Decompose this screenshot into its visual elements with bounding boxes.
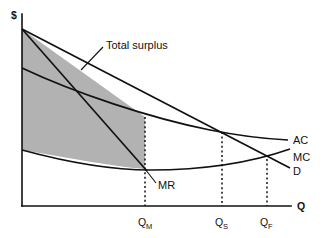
y-axis-label: $ [11, 9, 17, 21]
tick-label-qs: Q S [215, 216, 228, 231]
total-surplus-label: Total surplus [106, 39, 168, 51]
economics-diagram: $ Q Total surplus MR AC MC D Q M Q S Q F [0, 0, 323, 238]
mr-label: MR [158, 179, 175, 191]
tick-label-qs-base: Q [215, 216, 223, 228]
tick-label-qm-base: Q [138, 216, 146, 228]
total-surplus-leader-line [81, 47, 103, 70]
mr-leader-line [145, 169, 156, 183]
tick-label-qm: Q M [138, 216, 152, 231]
tick-label-qs-sub: S [223, 222, 228, 231]
tick-label-qf: Q F [260, 216, 273, 231]
x-axis-label: Q [297, 200, 305, 212]
tick-label-qf-base: Q [260, 216, 268, 228]
tick-label-qm-sub: M [146, 222, 152, 231]
mc-label: MC [293, 151, 310, 163]
diagram-canvas: $ Q Total surplus MR AC MC D Q M Q S Q F [0, 0, 323, 238]
d-label: D [293, 165, 301, 177]
tick-label-qf-sub: F [268, 222, 273, 231]
ac-label: AC [293, 134, 308, 146]
